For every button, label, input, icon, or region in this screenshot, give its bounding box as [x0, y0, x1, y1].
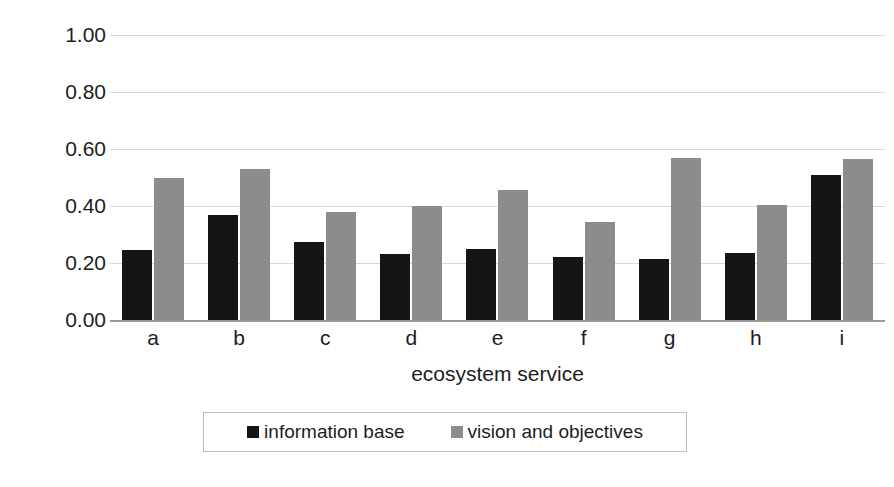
- bar-b-series-0[interactable]: [208, 215, 238, 320]
- bar-h-series-1[interactable]: [757, 205, 787, 320]
- bar-group-g: [627, 35, 713, 320]
- x-tick-label-i: i: [799, 326, 885, 360]
- bar-g-series-0[interactable]: [639, 259, 669, 320]
- legend-item-information-base[interactable]: information base: [247, 421, 404, 443]
- legend-item-vision-and-objectives[interactable]: vision and objectives: [451, 421, 643, 443]
- x-axis-line: [110, 320, 885, 322]
- x-tick-label-f: f: [541, 326, 627, 360]
- x-tick-label-e: e: [454, 326, 540, 360]
- bar-c-series-1[interactable]: [326, 212, 356, 320]
- bar-i-series-1[interactable]: [843, 159, 873, 320]
- bar-d-series-1[interactable]: [412, 206, 442, 320]
- y-tick-label-0.60: 0.60: [30, 137, 106, 161]
- bar-group-b: [196, 35, 282, 320]
- bar-g-series-1[interactable]: [671, 158, 701, 320]
- bar-a-series-1[interactable]: [154, 178, 184, 321]
- bar-group-f: [541, 35, 627, 320]
- bars-layer: [110, 35, 885, 320]
- x-axis-title: ecosystem service: [110, 362, 885, 386]
- bar-e-series-1[interactable]: [498, 190, 528, 320]
- bar-a-series-0[interactable]: [122, 250, 152, 320]
- bar-e-series-0[interactable]: [466, 249, 496, 320]
- legend-swatch-icon-vision-and-objectives: [451, 426, 463, 438]
- x-tick-label-d: d: [368, 326, 454, 360]
- x-axis-tick-labels: abcdefghi: [110, 326, 885, 360]
- y-axis-tick-labels: 1.00 0.80 0.60 0.40 0.20 0.00: [30, 0, 106, 340]
- bar-group-h: [713, 35, 799, 320]
- x-tick-label-h: h: [713, 326, 799, 360]
- x-tick-label-b: b: [196, 326, 282, 360]
- bar-c-series-0[interactable]: [294, 242, 324, 320]
- legend-label-information-base: information base: [264, 421, 404, 443]
- bar-group-i: [799, 35, 885, 320]
- bar-b-series-1[interactable]: [240, 169, 270, 320]
- bar-f-series-1[interactable]: [585, 222, 615, 320]
- x-tick-label-c: c: [282, 326, 368, 360]
- y-tick-label-0.00: 0.00: [30, 308, 106, 332]
- y-tick-label-0.20: 0.20: [30, 251, 106, 275]
- bar-group-d: [368, 35, 454, 320]
- bar-f-series-0[interactable]: [553, 257, 583, 320]
- chart-legend: information base vision and objectives: [203, 412, 687, 452]
- y-tick-label-1.00: 1.00: [30, 23, 106, 47]
- bar-group-c: [282, 35, 368, 320]
- y-tick-label-0.80: 0.80: [30, 80, 106, 104]
- x-tick-label-g: g: [627, 326, 713, 360]
- legend-label-vision-and-objectives: vision and objectives: [468, 421, 643, 443]
- plot-area: [110, 35, 885, 320]
- bar-d-series-0[interactable]: [380, 254, 410, 320]
- bar-group-e: [454, 35, 540, 320]
- bar-chart-figure: depth score 1.00 0.80 0.60 0.40 0.20 0.0…: [0, 0, 894, 487]
- x-tick-label-a: a: [110, 326, 196, 360]
- bar-h-series-0[interactable]: [725, 253, 755, 320]
- bar-group-a: [110, 35, 196, 320]
- bar-i-series-0[interactable]: [811, 175, 841, 320]
- y-tick-label-0.40: 0.40: [30, 194, 106, 218]
- legend-swatch-icon-information-base: [247, 426, 259, 438]
